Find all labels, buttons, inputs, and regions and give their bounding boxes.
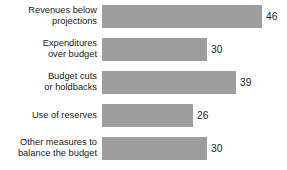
chart-row: Other measures to balance the budget 30 — [0, 137, 287, 160]
category-label-line: over budget — [0, 49, 97, 60]
bar — [102, 71, 236, 94]
chart-row: Use of reserves 26 — [0, 104, 287, 127]
category-label-line: Use of reserves — [0, 110, 97, 121]
bar — [102, 38, 207, 61]
category-label-line: Revenues below — [0, 5, 97, 16]
category-label: Use of reserves — [0, 110, 97, 121]
category-label-line: balance the budget — [0, 148, 97, 159]
category-label: Revenues below projections — [0, 5, 97, 27]
category-label: Budget cuts or holdbacks — [0, 71, 97, 93]
category-label-line: projections — [0, 16, 97, 27]
chart-row: Budget cuts or holdbacks 39 — [0, 71, 287, 94]
bar-chart: Revenues below projections 46 Expenditur… — [0, 0, 287, 170]
category-label-line: or holdbacks — [0, 82, 97, 93]
bar-value-label: 46 — [266, 11, 277, 23]
bar-value-label: 39 — [240, 77, 251, 89]
bar-value-label: 26 — [197, 110, 208, 122]
category-label-line: Budget cuts — [0, 71, 97, 82]
bar-value-label: 30 — [211, 44, 222, 56]
chart-row: Revenues below projections 46 — [0, 5, 287, 28]
category-label-line: Other measures to — [0, 137, 97, 148]
chart-row: Expenditures over budget 30 — [0, 38, 287, 61]
category-label-line: Expenditures — [0, 38, 97, 49]
bar — [102, 5, 262, 28]
bar — [102, 137, 207, 160]
bar — [102, 104, 193, 127]
category-label: Expenditures over budget — [0, 38, 97, 60]
category-label: Other measures to balance the budget — [0, 137, 97, 159]
bar-value-label: 30 — [211, 143, 222, 155]
